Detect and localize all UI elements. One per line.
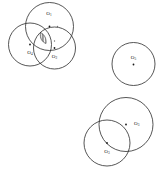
diagram-background (0, 0, 164, 173)
center-dot-o1 (49, 26, 51, 28)
circle-label-o3: O3 (134, 121, 140, 127)
marker-above-o2 (54, 40, 55, 41)
center-dot-o6 (106, 142, 108, 144)
circle-label-o5: O5 (131, 55, 137, 61)
circles-diagram: O1O4O2O5O3O3 (0, 0, 164, 173)
center-dot-o2 (54, 47, 56, 49)
center-dot-o5 (133, 64, 135, 66)
circle-label-o4: O4 (27, 50, 33, 56)
circle-label-o2: O2 (52, 54, 58, 60)
circle-label-o6: O3 (104, 149, 110, 155)
circle-label-o1: O1 (46, 11, 52, 17)
center-dot-o4 (29, 44, 31, 46)
marker-right-of-o1 (57, 26, 58, 27)
center-dot-o3 (125, 124, 127, 126)
diagram-canvas: O1O4O2O5O3O3 (0, 0, 164, 173)
